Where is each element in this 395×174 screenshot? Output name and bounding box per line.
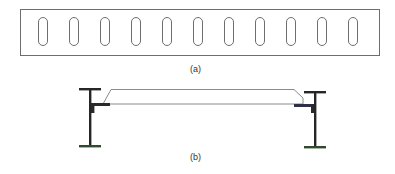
left-i-beam xyxy=(79,88,101,147)
deck-plate xyxy=(103,90,303,105)
panel-a-label: (a) xyxy=(190,64,201,74)
panel-b-label: (b) xyxy=(190,152,201,162)
right-i-beam xyxy=(304,91,326,148)
figure-canvas xyxy=(0,0,395,174)
left-angle xyxy=(91,103,110,113)
right-angle xyxy=(294,104,314,113)
slotted-plate xyxy=(21,10,380,56)
